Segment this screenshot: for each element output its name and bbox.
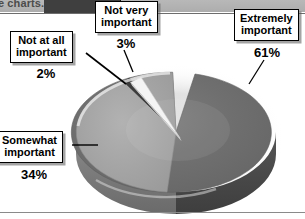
percent-not-very-important: 3%: [95, 36, 157, 51]
chart-figure: e charts.: [0, 0, 305, 219]
clipped-body-text: e charts.: [0, 0, 44, 9]
callout-line-1: Not at all: [16, 34, 67, 46]
bottom-divider-rule: [0, 212, 305, 213]
callout-line-2: important: [2, 146, 57, 158]
callout-line-2: important: [16, 46, 67, 58]
callout-extremely-important[interactable]: Extremely important: [234, 9, 299, 41]
callout-line-2: important: [101, 16, 152, 28]
callout-line-1: Not very: [101, 4, 152, 16]
callout-line-1: Extremely: [240, 12, 293, 24]
callout-not-at-all-important[interactable]: Not at all important: [10, 31, 73, 63]
pie-top-sheen: [126, 99, 230, 161]
percent-extremely-important: 61%: [234, 45, 300, 60]
percent-not-at-all-important: 2%: [10, 66, 82, 81]
callout-line-2: important: [240, 24, 293, 36]
callout-not-very-important[interactable]: Not very important: [95, 1, 158, 33]
pie-chart-graphic: [66, 62, 305, 219]
callout-line-1: Somewhat: [2, 134, 57, 146]
percent-somewhat-important: 34%: [0, 167, 72, 182]
callout-somewhat-important[interactable]: Somewhat important: [0, 131, 63, 163]
